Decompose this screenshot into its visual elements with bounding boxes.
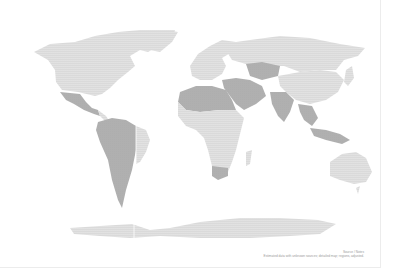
russia [222, 36, 365, 72]
australia [330, 152, 372, 184]
india [270, 92, 294, 122]
new-zealand [356, 186, 360, 194]
madagascar [246, 150, 252, 166]
africa [178, 102, 244, 176]
south-america-west [96, 118, 136, 208]
southeast-asia [298, 104, 318, 126]
world-map [0, 0, 380, 267]
indonesia [310, 128, 350, 144]
map-card: Source / Notes Estimated data with unkno… [0, 0, 381, 268]
map-footer: Source / Notes Estimated data with unkno… [264, 250, 364, 258]
greenland [145, 30, 178, 52]
brazil [136, 126, 150, 164]
antarctica [70, 218, 336, 238]
japan [344, 66, 354, 86]
footer-notes: Estimated data with unknown sources; det… [264, 254, 364, 258]
south-africa [212, 166, 228, 180]
